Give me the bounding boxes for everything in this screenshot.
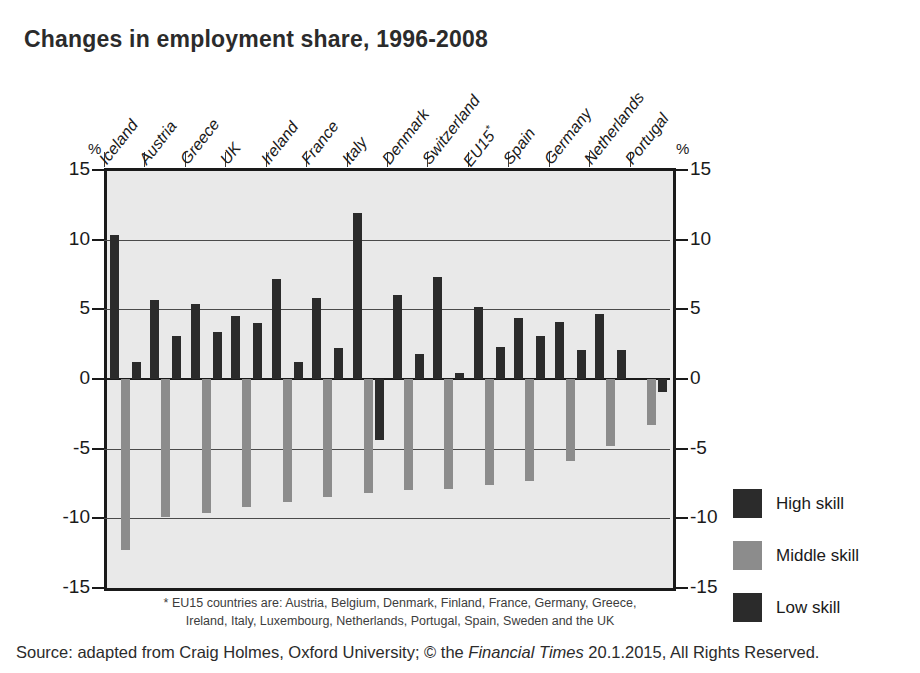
y-tick-mark-left-15 (92, 169, 104, 171)
y-tick-mark-left--5 (92, 448, 104, 450)
y-tick-label-left--15: -15 (44, 576, 90, 598)
y-tick-label-left-10: 10 (44, 228, 90, 250)
bar-high-greece (191, 304, 200, 379)
bar-high-denmark (393, 295, 402, 379)
bar-middle-switzerland (444, 379, 453, 489)
bar-low-portugal (658, 379, 667, 392)
bar-high-iceland (110, 235, 119, 379)
y-tick-mark-right--10 (676, 517, 688, 519)
y-tick-mark-right--5 (676, 448, 688, 450)
bar-low-italy (375, 379, 384, 440)
y-tick-label-left-5: 5 (44, 297, 90, 319)
gridline--10 (104, 518, 670, 519)
y-tick-mark-right--15 (676, 587, 688, 589)
plot-bottom-border (104, 588, 676, 591)
bar-high-italy (353, 213, 362, 379)
y-tick-label-right--10: -10 (690, 506, 736, 528)
bar-high-spain (514, 318, 523, 379)
x-axis-label-greece: Greece (177, 116, 223, 168)
chart-figure: Changes in employment share, 1996-2008 %… (0, 0, 920, 673)
bar-middle-denmark (404, 379, 413, 490)
y-tick-mark-left--10 (92, 517, 104, 519)
bar-low-iceland (132, 362, 141, 379)
legend-swatch-middle (733, 541, 762, 570)
bar-middle-austria (161, 379, 170, 517)
bar-high-uk (231, 316, 240, 379)
legend-label-middle: Middle skill (776, 546, 859, 566)
y-tick-mark-right-10 (676, 239, 688, 241)
bar-low-germany (577, 350, 586, 379)
y-tick-mark-right-0 (676, 378, 688, 380)
y-tick-label-left--5: -5 (44, 437, 90, 459)
legend-item-high: High skill (733, 489, 913, 518)
bar-middle-greece (202, 379, 211, 513)
bar-middle-france (323, 379, 332, 497)
y-tick-label-right-10: 10 (690, 228, 736, 250)
plot-top-border (104, 168, 676, 171)
y-tick-label-left--10: -10 (44, 506, 90, 528)
legend-swatch-high (733, 489, 762, 518)
x-axis-label-spain: Spain (500, 125, 539, 168)
bar-low-netherlands (617, 350, 626, 379)
bar-low-eu15 (496, 347, 505, 379)
y-tick-mark-left-0 (92, 378, 104, 380)
bar-middle-italy (364, 379, 373, 493)
bar-high-netherlands (595, 314, 604, 379)
bar-middle-germany (566, 379, 575, 461)
y-tick-mark-left-5 (92, 308, 104, 310)
bar-low-ireland (294, 362, 303, 379)
x-axis-label-ireland: Ireland (258, 118, 302, 168)
bar-high-austria (150, 300, 159, 379)
bar-low-uk (253, 323, 262, 379)
legend-label-high: High skill (776, 494, 844, 514)
bar-middle-netherlands (606, 379, 615, 446)
bar-high-france (312, 298, 321, 379)
bar-middle-portugal (647, 379, 656, 425)
y-tick-mark-right-15 (676, 169, 688, 171)
page-title: Changes in employment share, 1996-2008 (24, 26, 488, 53)
gridline-10 (104, 240, 670, 241)
x-axis-label-italy: Italy (338, 134, 370, 168)
bar-middle-spain (525, 379, 534, 481)
y-tick-label-left-15: 15 (44, 158, 90, 180)
y-tick-label-left-0: 0 (44, 367, 90, 389)
bar-high-switzerland (433, 277, 442, 379)
source-prefix: Source: adapted from Craig Holmes, Oxfor… (16, 643, 468, 661)
y-tick-mark-right-5 (676, 308, 688, 310)
percent-symbol-right: % (676, 140, 689, 157)
x-axis-label-uk: UK (217, 139, 245, 168)
gridline--5 (104, 449, 670, 450)
footnote: * EU15 countries are: Austria, Belgium, … (150, 594, 650, 630)
bar-middle-ireland (283, 379, 292, 502)
x-axis-label-iceland: Iceland (96, 116, 142, 168)
source-publication: Financial Times (468, 643, 583, 661)
y-tick-label-right-5: 5 (690, 297, 736, 319)
legend-label-low: Low skill (776, 598, 840, 618)
y-tick-mark-left-10 (92, 239, 104, 241)
y-tick-mark-left--15 (92, 587, 104, 589)
bar-high-germany (555, 322, 564, 379)
y-tick-label-right--5: -5 (690, 437, 736, 459)
y-tick-label-right--15: -15 (690, 576, 736, 598)
x-axis-label-eu15: EU15* (458, 123, 501, 170)
source-line: Source: adapted from Craig Holmes, Oxfor… (16, 643, 819, 662)
bar-low-switzerland (455, 373, 464, 379)
y-tick-label-right-15: 15 (690, 158, 736, 180)
bar-high-ireland (272, 279, 281, 379)
legend-item-low: Low skill (733, 593, 913, 622)
x-axis-label-france: France (298, 118, 343, 168)
bar-low-greece (213, 332, 222, 379)
bar-low-austria (172, 336, 181, 379)
source-suffix: 20.1.2015, All Rights Reserved. (584, 643, 820, 661)
y-tick-label-right-0: 0 (690, 367, 736, 389)
bar-low-denmark (415, 354, 424, 379)
legend-item-middle: Middle skill (733, 541, 913, 570)
legend: High skillMiddle skillLow skill (733, 489, 913, 645)
bar-middle-uk (242, 379, 251, 507)
bar-low-france (334, 348, 343, 379)
x-axis-label-austria: Austria (136, 118, 181, 168)
legend-swatch-low (733, 593, 762, 622)
bar-high-eu15 (474, 307, 483, 379)
gridline-5 (104, 309, 670, 310)
bar-middle-iceland (121, 379, 130, 550)
